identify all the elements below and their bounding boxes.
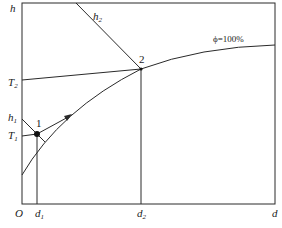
label-h1: h1 xyxy=(8,111,17,125)
label-t2: T2 xyxy=(8,76,18,90)
point-1-label: 1 xyxy=(36,117,42,129)
enthalpy-line-h1 xyxy=(22,119,45,142)
label-d2: d2 xyxy=(137,207,147,221)
label-t1: T1 xyxy=(8,129,18,143)
enthalpy-line-h2 xyxy=(76,3,141,69)
y-axis-label: h xyxy=(10,2,16,14)
saturation-curve xyxy=(22,45,275,175)
origin-label: O xyxy=(15,207,23,219)
label-h2: h2 xyxy=(93,10,103,24)
label-d1: d1 xyxy=(35,207,44,221)
state-point-2 xyxy=(139,67,142,70)
saturation-curve-label: ϕ=100% xyxy=(213,34,244,44)
process-line-1-2 xyxy=(37,116,70,134)
point-2-label: 2 xyxy=(139,53,145,65)
x-axis-label: d xyxy=(272,207,278,219)
state-point-1 xyxy=(34,131,40,137)
arrow-icon xyxy=(64,114,72,121)
psychrometric-diagram: h h2 T2 h1 T1 1 2 ϕ=100% O d1 d2 d xyxy=(0,0,282,228)
